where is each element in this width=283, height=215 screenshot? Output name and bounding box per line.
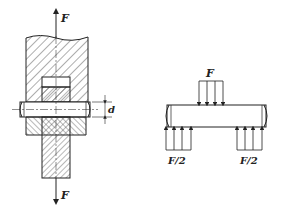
dimension-label: d	[108, 104, 115, 115]
left-reaction-load: F/2	[166, 128, 191, 166]
top-load-label: F	[205, 67, 215, 80]
pin-joint-diagram: F F d F	[0, 0, 283, 215]
right-free-body: F F/2 F/2	[166, 67, 267, 166]
left-reaction-label: F/2	[167, 155, 186, 166]
top-force-label: F	[60, 12, 70, 25]
diameter-dimension: d	[92, 95, 115, 124]
left-assembly: F F d	[12, 11, 115, 202]
top-distributed-load: F	[199, 67, 223, 104]
right-reaction-label: F/2	[239, 155, 258, 166]
pin-right-view	[166, 105, 267, 127]
bottom-force-label: F	[60, 189, 70, 202]
right-reaction-load: F/2	[237, 128, 262, 166]
pin-left-view	[12, 102, 98, 117]
